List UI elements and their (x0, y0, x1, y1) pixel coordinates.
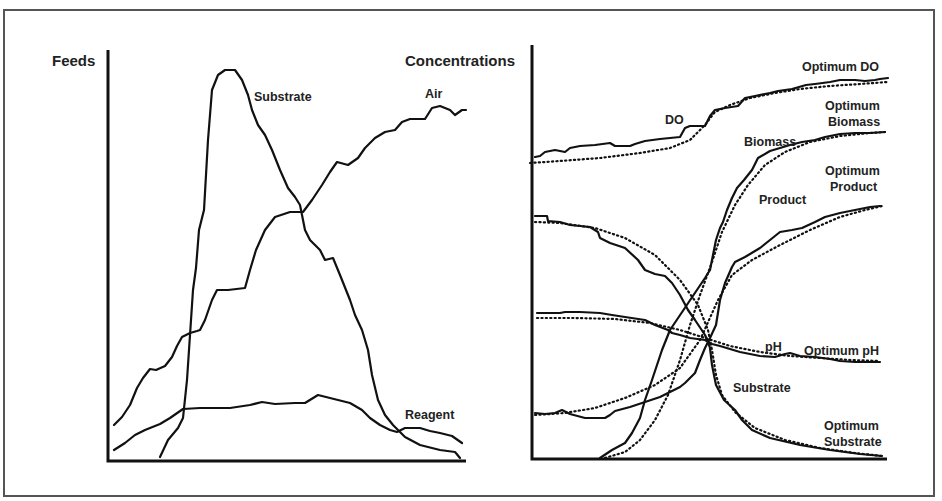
label-optimum-ph: Optimum pH (804, 344, 879, 358)
label-optimum-product-1: Optimum (825, 164, 880, 178)
label-substrate: Substrate (733, 381, 791, 395)
label-optimum-substrate-1: Optimum (824, 419, 879, 433)
label-optimum-biomass-1: Optimum (825, 99, 880, 113)
label-optimum-product-2: Product (830, 180, 878, 194)
label-do: DO (665, 113, 684, 127)
label-feeds-substrate: Substrate (254, 90, 312, 104)
figure: Feeds Substrate Air Reagent Concentratio… (0, 0, 942, 501)
series-optimum-product-line (535, 206, 882, 415)
feeds-axes (108, 50, 466, 461)
label-feeds-air: Air (425, 87, 443, 101)
label-ph: pH (765, 340, 782, 354)
panel-title-feeds: Feeds (52, 52, 95, 69)
panel-feeds: Feeds Substrate Air Reagent (52, 50, 466, 461)
label-optimum-do: Optimum DO (802, 60, 879, 74)
label-feeds-reagent: Reagent (405, 408, 455, 422)
label-biomass: Biomass (744, 135, 796, 149)
figure-frame (4, 10, 934, 496)
label-optimum-substrate-2: Substrate (824, 435, 882, 449)
panel-title-concentrations: Concentrations (405, 52, 515, 69)
label-optimum-biomass-2: Biomass (828, 115, 880, 129)
label-product: Product (759, 193, 807, 207)
series-air-line (114, 106, 466, 425)
panel-concentrations: Concentrations Optimum DO DO Optimum Bio… (405, 45, 888, 459)
